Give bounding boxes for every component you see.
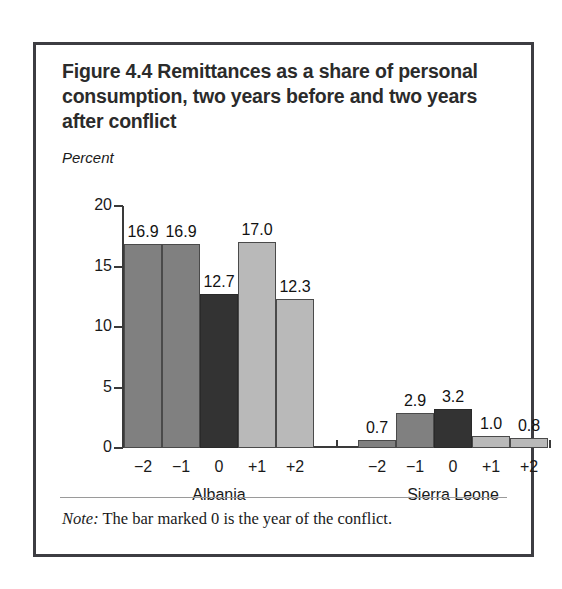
- y-axis-tick-labels: 05101520: [62, 195, 112, 455]
- x-axis-category-label: +2: [270, 458, 320, 476]
- y-axis-tick: [114, 266, 123, 268]
- x-axis-group-tick: [336, 440, 338, 448]
- y-axis-tick: [114, 447, 123, 449]
- bar-value-label: 0.7: [352, 419, 402, 437]
- bar-value-label: 12.3: [270, 278, 320, 296]
- y-axis-unit-label: Percent: [62, 149, 114, 166]
- bar: [124, 244, 162, 448]
- bar: [510, 438, 548, 448]
- x-axis-category-label: +2: [504, 458, 554, 476]
- bars-layer: 16.916.912.717.012.30.72.93.21.00.8: [122, 206, 527, 448]
- bar: [358, 440, 396, 448]
- bar-value-label: 17.0: [232, 221, 282, 239]
- bar: [396, 413, 434, 448]
- y-axis-tick: [114, 326, 123, 328]
- y-axis-tick-label: 5: [76, 378, 112, 396]
- bar: [238, 242, 276, 448]
- bar-value-label: 3.2: [428, 388, 478, 406]
- bar-value-label: 16.9: [156, 223, 206, 241]
- note-label: Note:: [62, 509, 99, 528]
- y-axis-tick-label: 0: [76, 438, 112, 456]
- bar: [276, 299, 314, 448]
- x-axis-group-label: Sierra Leone: [378, 486, 528, 504]
- bar: [472, 436, 510, 448]
- y-axis-tick-label: 10: [76, 317, 112, 335]
- chart-plot-area: 05101520 16.916.912.717.012.30.72.93.21.…: [62, 195, 507, 455]
- x-axis-group-tick: [549, 440, 551, 448]
- bar-value-label: 0.8: [504, 417, 554, 435]
- x-axis-group-label: Albania: [144, 486, 294, 504]
- y-axis-tick: [114, 205, 123, 207]
- y-axis-tick: [114, 387, 123, 389]
- bar: [200, 294, 238, 448]
- note-divider: [60, 497, 507, 498]
- y-axis-tick-label: 20: [76, 196, 112, 214]
- bar-value-label: 12.7: [194, 273, 244, 291]
- figure-frame: Figure 4.4 Remittances as a share of per…: [33, 42, 534, 557]
- y-axis-tick-label: 15: [76, 257, 112, 275]
- note-body: The bar marked 0 is the year of the conf…: [99, 509, 392, 528]
- figure-note: Note: The bar marked 0 is the year of th…: [62, 509, 507, 529]
- figure-title: Figure 4.4 Remittances as a share of per…: [62, 59, 502, 134]
